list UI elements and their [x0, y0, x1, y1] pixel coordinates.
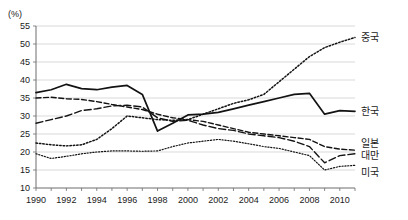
data-series	[36, 38, 355, 170]
legend-label-0: 중국	[361, 32, 379, 43]
legend-label-3: 대만	[361, 150, 379, 161]
x-tick-label-1994: 1994	[87, 195, 107, 205]
y-tick-label-40: 40	[20, 75, 30, 85]
series-line-0	[36, 38, 355, 146]
x-tick-label-1998: 1998	[148, 195, 168, 205]
y-tick-label-15: 15	[20, 165, 30, 175]
x-tick-label-2008: 2008	[299, 195, 319, 205]
y-tick-label-50: 50	[20, 39, 30, 49]
x-tick-label-2006: 2006	[269, 195, 289, 205]
axes	[33, 26, 355, 191]
y-tick-label-10: 10	[20, 183, 30, 193]
y-axis-tick-labels: 10152025303540455055	[20, 21, 30, 193]
y-tick-label-35: 35	[20, 93, 30, 103]
legend-label-1: 한국	[361, 106, 379, 117]
y-tick-label-55: 55	[20, 21, 30, 31]
x-tick-label-2010: 2010	[330, 195, 350, 205]
chart-legend: 중국한국일본대만미국	[361, 32, 379, 178]
legend-label-4: 미국	[361, 167, 379, 178]
gridlines	[36, 26, 355, 170]
x-tick-label-1992: 1992	[56, 195, 76, 205]
x-axis-tick-labels: 1990199219941996199820002002200420062008…	[26, 195, 350, 205]
y-tick-label-45: 45	[20, 57, 30, 67]
y-axis-unit-label: (%)	[8, 9, 22, 19]
y-tick-label-20: 20	[20, 147, 30, 157]
y-tick-label-30: 30	[20, 111, 30, 121]
series-line-1	[36, 84, 355, 131]
x-tick-label-1990: 1990	[26, 195, 46, 205]
x-tick-label-2004: 2004	[239, 195, 259, 205]
x-tick-label-1996: 1996	[117, 195, 137, 205]
line-chart: 10152025303540455055 1990199219941996199…	[0, 0, 408, 220]
x-tick-label-2002: 2002	[208, 195, 228, 205]
y-tick-label-25: 25	[20, 129, 30, 139]
legend-label-2: 일본	[361, 138, 379, 149]
chart-canvas: 10152025303540455055 1990199219941996199…	[0, 0, 408, 220]
x-tick-label-2000: 2000	[178, 195, 198, 205]
series-line-2	[36, 97, 355, 150]
